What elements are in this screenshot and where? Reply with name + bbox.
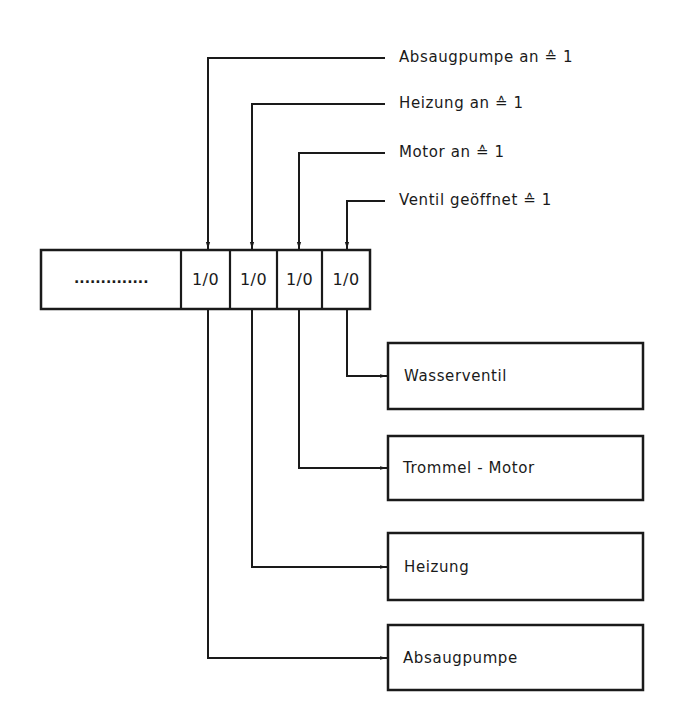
output-label-heizung: Heizung xyxy=(404,560,469,575)
register-bit-absaugpumpe: 1/0 xyxy=(181,272,230,288)
input-label-motor: Motor an ≙ 1 xyxy=(399,145,505,160)
output-label-trommel-motor: Trommel - Motor xyxy=(403,461,535,476)
input-label-heizung: Heizung an ≙ 1 xyxy=(399,96,524,111)
input-wire-heizung xyxy=(252,104,385,249)
output-wire-trommel-motor xyxy=(299,310,387,468)
output-wire-heizung xyxy=(252,310,387,567)
register-bit-heizung: 1/0 xyxy=(230,272,277,288)
output-label-wasserventil: Wasserventil xyxy=(404,369,507,384)
register-placeholder: .............. xyxy=(74,271,148,285)
input-label-ventil: Ventil geöffnet ≙ 1 xyxy=(399,193,552,208)
input-wire-ventil xyxy=(347,201,385,249)
diagram-canvas xyxy=(0,0,680,725)
register-bit-motor: 1/0 xyxy=(277,272,322,288)
output-wire-wasserventil xyxy=(347,310,387,376)
register-bit-ventil: 1/0 xyxy=(322,272,370,288)
output-label-absaugpumpe: Absaugpumpe xyxy=(403,651,518,666)
output-wire-absaugpumpe xyxy=(208,310,387,658)
input-label-absaugpumpe: Absaugpumpe an ≙ 1 xyxy=(399,50,573,65)
